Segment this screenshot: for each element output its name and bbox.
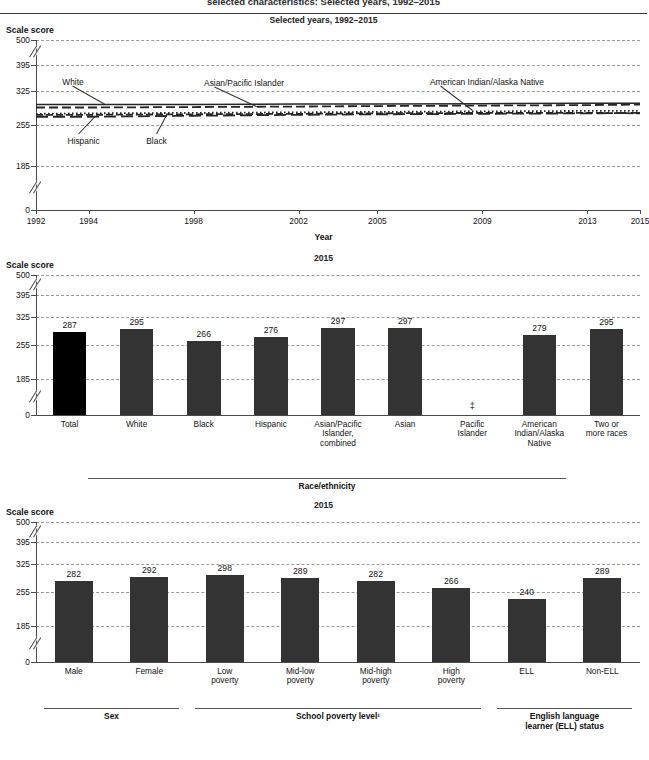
race-subtitle: 2015 xyxy=(0,253,647,263)
panel-trend-chart: Scale score Selected years, 1992–2015 01… xyxy=(0,0,647,250)
race-bar-value-1: 295 xyxy=(129,317,143,327)
other-ytick-label-255: 255 xyxy=(4,587,30,597)
other-x-axis-line xyxy=(36,662,640,663)
trend-ytick-label-0: 0 xyxy=(4,205,30,215)
race-axis-break-1 xyxy=(29,279,42,290)
other-category-label-0: Male xyxy=(31,667,117,676)
trend-annotation-american-indian-alaska-native: American Indian/Alaska Native xyxy=(430,77,544,87)
race-bar-1 xyxy=(120,329,154,415)
other-bar-7 xyxy=(583,578,621,662)
trend-xtick-1992 xyxy=(36,210,37,214)
other-bar-3 xyxy=(281,578,319,662)
race-bar-2 xyxy=(187,341,221,415)
other-bar-value-5: 266 xyxy=(444,576,458,586)
race-bar-value-0: 287 xyxy=(62,320,76,330)
race-suppressed-marker-6: ‡ xyxy=(470,401,475,411)
race-bar-value-3: 276 xyxy=(264,325,278,335)
other-group-label-2: English languagelearner (ELL) status xyxy=(525,712,604,731)
trend-annotation-hispanic: Hispanic xyxy=(68,136,100,146)
other-group-label-0: Sex xyxy=(104,712,119,722)
race-category-label-1: White xyxy=(98,420,175,429)
trend-ytick-label-185: 185 xyxy=(4,161,30,171)
other-bar-4 xyxy=(357,581,395,662)
other-group-rule-2 xyxy=(497,708,633,709)
trend-xtick-label-1998: 1998 xyxy=(184,216,203,226)
race-gridline-395 xyxy=(36,295,640,296)
race-category-label-8: Two ormore races xyxy=(568,420,645,439)
race-ytick-label-325: 325 xyxy=(4,312,30,322)
other-axis-break-1 xyxy=(29,526,42,537)
trend-x-axis-line xyxy=(36,210,640,211)
race-bar-8 xyxy=(590,329,624,415)
trend-xtick-2002 xyxy=(299,210,300,214)
race-ytick-label-255: 255 xyxy=(4,340,30,350)
other-category-label-2: Lowpoverty xyxy=(182,667,268,686)
trend-annotation-black: Black xyxy=(146,136,166,146)
other-group-label-1: School poverty level¹ xyxy=(296,712,380,722)
other-bar-5 xyxy=(432,588,470,662)
race-bar-4 xyxy=(321,328,355,415)
trend-xtick-2005 xyxy=(377,210,378,214)
other-gridline-185 xyxy=(36,626,640,627)
other-category-label-5: Highpoverty xyxy=(409,667,495,686)
race-gridline-500 xyxy=(36,275,640,276)
race-category-label-3: Hispanic xyxy=(232,420,309,429)
trend-xtick-label-2002: 2002 xyxy=(289,216,308,226)
race-ytick-label-185: 185 xyxy=(4,374,30,384)
race-bar-value-8: 295 xyxy=(599,317,613,327)
trend-y-axis-title: Scale score xyxy=(6,25,54,35)
race-category-label-7: AmericanIndian/AlaskaNative xyxy=(501,420,578,448)
race-bar-value-2: 266 xyxy=(197,329,211,339)
race-bar-value-7: 279 xyxy=(532,323,546,333)
race-ytick-label-0: 0 xyxy=(4,410,30,420)
race-category-label-5: Asian xyxy=(367,420,444,429)
trend-xtick-label-1992: 1992 xyxy=(27,216,46,226)
other-bar-value-1: 292 xyxy=(142,565,156,575)
race-group-label: Race/ethnicity xyxy=(299,482,356,492)
trend-xtick-2015 xyxy=(640,210,641,214)
race-ytick-label-500: 500 xyxy=(4,270,30,280)
other-bar-value-4: 282 xyxy=(369,569,383,579)
other-gridline-255 xyxy=(36,592,640,593)
other-bar-value-3: 289 xyxy=(293,566,307,576)
other-category-label-3: Mid-lowpoverty xyxy=(258,667,344,686)
other-gridline-500 xyxy=(36,522,640,523)
other-bar-value-2: 298 xyxy=(218,563,232,573)
other-gridline-325 xyxy=(36,564,640,565)
race-bar-5 xyxy=(388,328,422,415)
trend-subtitle: Selected years, 1992–2015 xyxy=(0,15,647,25)
race-bar-value-4: 297 xyxy=(331,316,345,326)
other-bar-0 xyxy=(55,581,93,662)
race-category-label-6: PacificIslander xyxy=(434,420,511,439)
other-group-rule-0 xyxy=(44,708,180,709)
other-bar-1 xyxy=(130,577,168,662)
race-group-rule xyxy=(88,478,566,479)
other-bar-6 xyxy=(508,599,546,662)
trend-ytick-label-500: 500 xyxy=(4,35,30,45)
other-ytick-label-325: 325 xyxy=(4,559,30,569)
other-category-label-1: Female xyxy=(107,667,193,676)
trend-xtick-label-1994: 1994 xyxy=(79,216,98,226)
panel-other-chart: Scale score 2015 0185255325395500282Male… xyxy=(0,500,647,760)
other-category-label-7: Non-ELL xyxy=(560,667,646,676)
other-plot-area: 0185255325395500282Male292Female298Lowpo… xyxy=(36,522,640,662)
other-category-label-6: ELL xyxy=(484,667,570,676)
other-bar-value-0: 282 xyxy=(67,569,81,579)
race-axis-break-0 xyxy=(29,391,42,402)
other-ytick-label-500: 500 xyxy=(4,517,30,527)
trend-xtick-2009 xyxy=(482,210,483,214)
other-category-label-4: Mid-highpoverty xyxy=(333,667,419,686)
race-category-label-4: Asian/PacificIslander,combined xyxy=(299,420,376,448)
other-subtitle: 2015 xyxy=(0,500,647,510)
trend-xtick-1998 xyxy=(194,210,195,214)
other-axis-break-0 xyxy=(29,638,42,649)
trend-xtick-label-2013: 2013 xyxy=(578,216,597,226)
trend-x-axis-title: Year xyxy=(0,232,647,242)
trend-xtick-label-2015: 2015 xyxy=(631,216,649,226)
race-ytick-label-395: 395 xyxy=(4,290,30,300)
trend-ytick-label-395: 395 xyxy=(4,60,30,70)
race-x-axis-line xyxy=(36,415,640,416)
other-ytick-label-0: 0 xyxy=(4,657,30,667)
race-bar-3 xyxy=(254,337,288,415)
trend-plot-area: 0185255325395500199219941998200220052009… xyxy=(36,40,640,210)
